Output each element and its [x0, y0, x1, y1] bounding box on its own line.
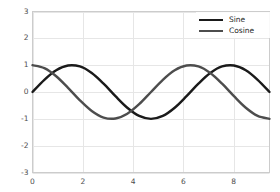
x-tick-label: 2: [80, 178, 85, 186]
legend-swatch-cosine: [199, 30, 223, 32]
legend-swatch-sine: [199, 19, 223, 21]
x-tick-label: 0: [30, 178, 35, 186]
y-tick-label: 1: [24, 61, 29, 69]
y-tick-label: 3: [24, 8, 29, 16]
x-tick-label: 8: [231, 178, 236, 186]
x-tick-label: 4: [131, 178, 136, 186]
legend-item-sine[interactable]: Sine: [196, 14, 270, 25]
y-tick-label: 2: [24, 35, 29, 43]
x-tick-label: 6: [181, 178, 186, 186]
legend-label-cosine: Cosine: [229, 27, 254, 35]
y-tick-label: 0: [24, 88, 29, 96]
legend-item-cosine[interactable]: Cosine: [196, 25, 270, 36]
y-tick-label: -1: [21, 115, 28, 123]
y-tick-label: -2: [21, 142, 28, 150]
chart-figure: 3210-1-2-3 02468 Sine Cosine: [0, 0, 280, 192]
chart-legend: Sine Cosine: [196, 12, 270, 38]
legend-label-sine: Sine: [229, 16, 245, 24]
y-tick-label: -3: [21, 169, 28, 177]
